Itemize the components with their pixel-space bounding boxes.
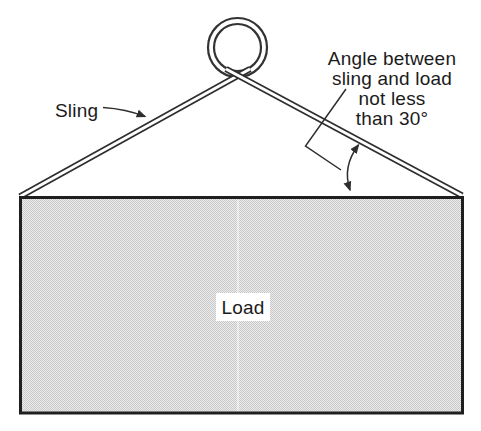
sling-label: Sling [55, 100, 98, 121]
load-label: Load [221, 297, 264, 318]
sling-load-diagram: Load Sling Angle between sling and load … [0, 0, 481, 431]
lifting-ring-inner [214, 24, 261, 71]
lifting-ring-icon [208, 18, 267, 77]
angle-note: Angle between sling and load not less th… [328, 48, 456, 129]
angle-note-line-1: Angle between [328, 48, 456, 69]
angle-arc-arrow [347, 145, 358, 190]
sling-left-line [20, 69, 250, 197]
sling-pointer-arrow [103, 108, 145, 117]
angle-note-line-4: than 30° [356, 108, 429, 129]
diagram-canvas: Load Sling Angle between sling and load … [0, 0, 481, 431]
angle-note-line-3: not less [358, 88, 425, 109]
angle-note-line-2: sling and load [332, 68, 452, 89]
